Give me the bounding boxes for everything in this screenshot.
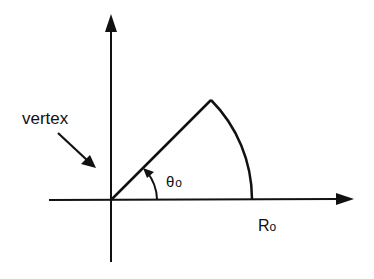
vertex-pointer bbox=[58, 133, 96, 168]
x-axis-arrowhead-icon bbox=[336, 193, 354, 205]
diagram-canvas: vertex θo Ro bbox=[0, 0, 374, 279]
sector-radius-line bbox=[111, 100, 211, 200]
angle-indicator bbox=[143, 168, 157, 199]
radius-subscript: o bbox=[270, 220, 277, 234]
vertex-label: vertex bbox=[22, 109, 69, 128]
radius-symbol: R bbox=[258, 217, 270, 234]
radius-label: Ro bbox=[258, 217, 277, 234]
angle-subscript: o bbox=[175, 176, 182, 190]
y-axis-arrowhead-icon bbox=[105, 14, 117, 32]
sector-diagram: vertex θo Ro bbox=[0, 0, 374, 279]
angle-arrowhead-icon bbox=[143, 168, 154, 178]
sector-arc bbox=[211, 100, 252, 199]
angle-label: θo bbox=[166, 173, 182, 190]
x-axis bbox=[49, 193, 354, 205]
y-axis bbox=[105, 14, 117, 262]
angle-symbol: θ bbox=[166, 173, 174, 190]
